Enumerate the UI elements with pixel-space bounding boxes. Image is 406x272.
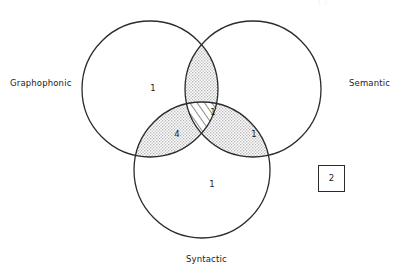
region-count-graphophonic-only: 1: [150, 84, 155, 93]
venn-diagram-canvas: [0, 0, 406, 272]
set-label-syntactic: Syntactic: [186, 255, 227, 264]
outside-count-value: 2: [329, 174, 334, 183]
set-label-graphophonic: Graphophonic: [10, 79, 71, 88]
set-label-semantic: Semantic: [349, 79, 390, 88]
outside-count-box: 2: [318, 165, 345, 192]
region-count-all-three-sets: 1: [210, 108, 215, 117]
region-count-semantic-and-syntactic: 1: [251, 130, 256, 139]
venn-diagram-figure: ( ): [0, 0, 406, 272]
region-count-graphophonic-and-syntactic: 4: [174, 130, 179, 139]
region-count-syntactic-only: 1: [209, 180, 214, 189]
